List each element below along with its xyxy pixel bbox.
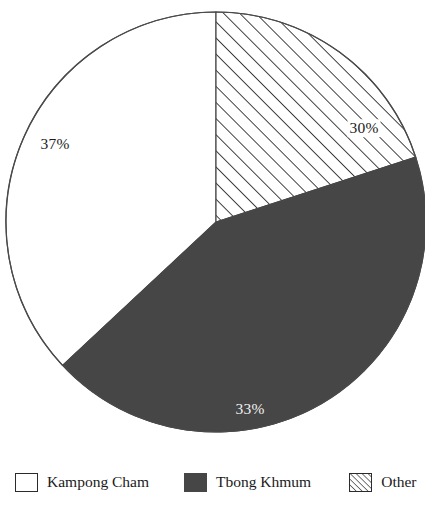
pie-chart-plot-area: 30% 33% 37% [0, 0, 425, 450]
pie-chart-svg [0, 0, 425, 450]
pie-chart-figure: 30% 33% 37% Kampong Cham Tbong Khmum [0, 0, 425, 506]
legend-label-other: Other [381, 474, 416, 490]
legend-hatch-svg [350, 474, 371, 491]
legend-swatch-hatched-icon [349, 473, 372, 492]
legend-item-tbong-khmum: Tbong Khmum [184, 473, 311, 492]
chart-legend: Kampong Cham Tbong Khmum Other [0, 462, 425, 502]
legend-swatch-white-icon [15, 473, 38, 492]
legend-label-tbong-khmum: Tbong Khmum [216, 474, 311, 490]
legend-swatch-dark-icon [184, 473, 207, 492]
pie-label-other: 30% [347, 119, 380, 137]
legend-label-kampong-cham: Kampong Cham [47, 474, 149, 490]
legend-item-kampong-cham: Kampong Cham [15, 473, 149, 492]
pie-label-kampong-cham: 37% [40, 136, 69, 152]
legend-item-other: Other [349, 473, 416, 492]
pie-label-tbong-khmum: 33% [235, 401, 264, 417]
